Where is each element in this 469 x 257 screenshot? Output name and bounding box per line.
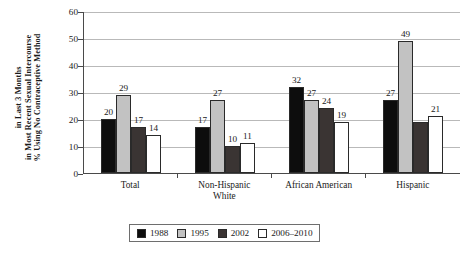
y-tick-label-10: 10 [69,142,78,152]
x-category-label: Non-HispanicWhite [177,180,271,214]
bar-group-bars: 32272419 [289,12,349,173]
legend-label: 1988 [150,228,168,238]
x-category-label: African American [272,180,366,214]
legend-label: 2002 [231,228,249,238]
y-tick-label-50: 50 [69,34,78,44]
bar-value-label: 49 [401,29,410,39]
y-tick-label-40: 40 [69,61,78,71]
y-tick-label-20: 20 [69,115,78,125]
bar-value-label: 27 [307,88,316,98]
bar[interactable]: 11 [240,143,255,173]
bar-group-bars: 20291714 [101,12,161,173]
bar-value-label: 10 [228,134,237,144]
bar-value-label: 14 [149,123,158,133]
bar-value-label: 17 [134,115,143,125]
bar[interactable]: 17 [131,127,146,173]
bar[interactable]: 29 [116,95,131,173]
bar-group: 274921 [366,12,460,173]
x-category-label-line: Total [83,180,177,191]
legend-item[interactable]: 2002 [218,228,249,238]
bar-group: 32272419 [272,12,366,173]
bar[interactable]: 27 [210,100,225,173]
bar-groups: 202917141727101132272419274921 [84,12,460,173]
legend-item[interactable]: 1995 [177,228,208,238]
bar-value-label: 20 [104,107,113,117]
bar[interactable]: 49 [398,41,413,173]
bar-value-label: 19 [337,110,346,120]
bar[interactable]: 20 [101,119,116,173]
legend-item[interactable]: 1988 [137,228,168,238]
bar[interactable]: 19 [334,122,349,173]
y-tick-label-60: 60 [69,7,78,17]
bar[interactable]: 10 [225,146,240,173]
x-axis-group-separator [365,173,366,178]
y-axis-title-line-1: % Using No Contraceptive Method [33,33,43,161]
y-axis-title-line-2: in Most Recent Sexual Intercourse [23,34,33,159]
bar[interactable]: 17 [195,127,210,173]
legend-label: 2006–2010 [271,228,312,238]
bar-value-label: 17 [198,115,207,125]
legend-swatch-icon [218,229,227,238]
bar[interactable]: 24 [319,108,334,173]
bar[interactable]: 32 [289,87,304,173]
plot-area: 0102030405060 20291714172710113227241927… [56,12,460,174]
chart-legend: 1988199520022006–2010 [129,224,320,242]
bar-value-label: 27 [386,88,395,98]
x-category-label-line: African American [272,180,366,191]
bar-group-bars: 274921 [383,12,443,173]
plot-canvas: 202917141727101132272419274921 [83,12,460,174]
x-category-label-line: Non-Hispanic [177,180,271,191]
x-axis-group-separator [271,173,272,178]
x-category-label-line: Hispanic [366,180,460,191]
x-axis-category-labels: TotalNon-HispanicWhiteAfrican AmericanHi… [83,180,460,214]
legend-label: 1995 [190,228,208,238]
bar[interactable] [413,122,428,173]
y-axis-title: % Using No Contraceptive Method in Most … [6,8,50,186]
legend-swatch-icon [137,229,146,238]
x-category-label: Hispanic [366,180,460,214]
bar[interactable]: 14 [146,135,161,173]
y-axis-title-line-3: in Last 3 Months [14,66,24,128]
bar-group: 17271011 [178,12,272,173]
y-axis-tick-labels: 0102030405060 [56,12,78,174]
bar-value-label: 29 [119,83,128,93]
bar-value-label: 21 [431,104,440,114]
bar-value-label: 27 [213,88,222,98]
bar-value-label: 11 [243,131,252,141]
y-tick-mark-0 [78,174,83,175]
chart-figure: % Using No Contraceptive Method in Most … [0,0,469,257]
legend-swatch-icon [258,229,267,238]
legend-item[interactable]: 2006–2010 [258,228,312,238]
bar[interactable]: 21 [428,116,443,173]
x-category-label-line: White [177,191,271,202]
y-tick-label-30: 30 [69,88,78,98]
x-category-label: Total [83,180,177,214]
bar[interactable]: 27 [304,100,319,173]
bar-group-bars: 17271011 [195,12,255,173]
bar-group: 20291714 [84,12,178,173]
bar-value-label: 24 [322,96,331,106]
x-axis-group-separator [177,173,178,178]
bar[interactable]: 27 [383,100,398,173]
bar-value-label: 32 [292,75,301,85]
legend-swatch-icon [177,229,186,238]
